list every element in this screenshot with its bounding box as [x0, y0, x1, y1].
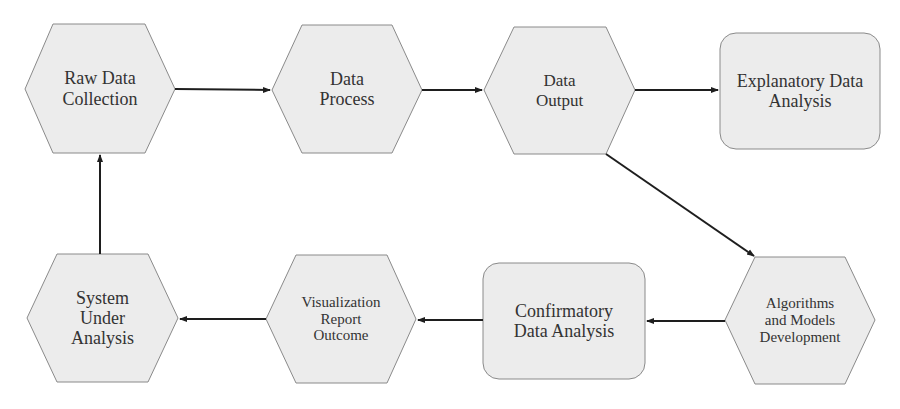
- node-explanatory-data-analysis: Explanatory Data Analysis: [720, 33, 880, 149]
- node-label-line: Outcome: [314, 327, 369, 344]
- edge-raw-to-process: [175, 89, 270, 90]
- node-label-line: System: [76, 288, 129, 308]
- node-label-line: Development: [760, 329, 841, 346]
- node-label-line: Visualization: [301, 294, 380, 311]
- node-label-line: Process: [320, 89, 375, 109]
- node-data-process: Data Process: [272, 25, 422, 153]
- node-confirmatory-data-analysis: Confirmatory Data Analysis: [483, 263, 645, 379]
- node-label-line: Under: [80, 308, 125, 328]
- node-label-line: Analysis: [71, 328, 134, 348]
- node-visualization-report-outcome: Visualization Report Outcome: [266, 255, 416, 383]
- node-label-line: Data: [330, 69, 364, 89]
- node-label-line: Report: [321, 311, 362, 328]
- node-label-line: and Models: [765, 312, 835, 329]
- node-label-line: Explanatory Data: [737, 71, 863, 91]
- node-label-line: Collection: [63, 89, 138, 109]
- node-label-line: Confirmatory: [515, 301, 613, 321]
- node-data-output: Data Output: [484, 27, 635, 154]
- node-label-line: Data Analysis: [514, 321, 615, 341]
- node-label-line: Data: [543, 71, 575, 90]
- node-label-line: Raw Data: [64, 68, 135, 88]
- node-algorithms-models-development: Algorithms and Models Development: [725, 257, 875, 384]
- node-raw-data-collection: Raw Data Collection: [25, 24, 175, 153]
- node-label-line: Analysis: [769, 91, 832, 111]
- edge-output-to-algorithms: [606, 154, 754, 256]
- node-system-under-analysis: System Under Analysis: [27, 254, 178, 382]
- node-label-line: Output: [536, 91, 583, 110]
- node-label-line: Algorithms: [766, 295, 834, 312]
